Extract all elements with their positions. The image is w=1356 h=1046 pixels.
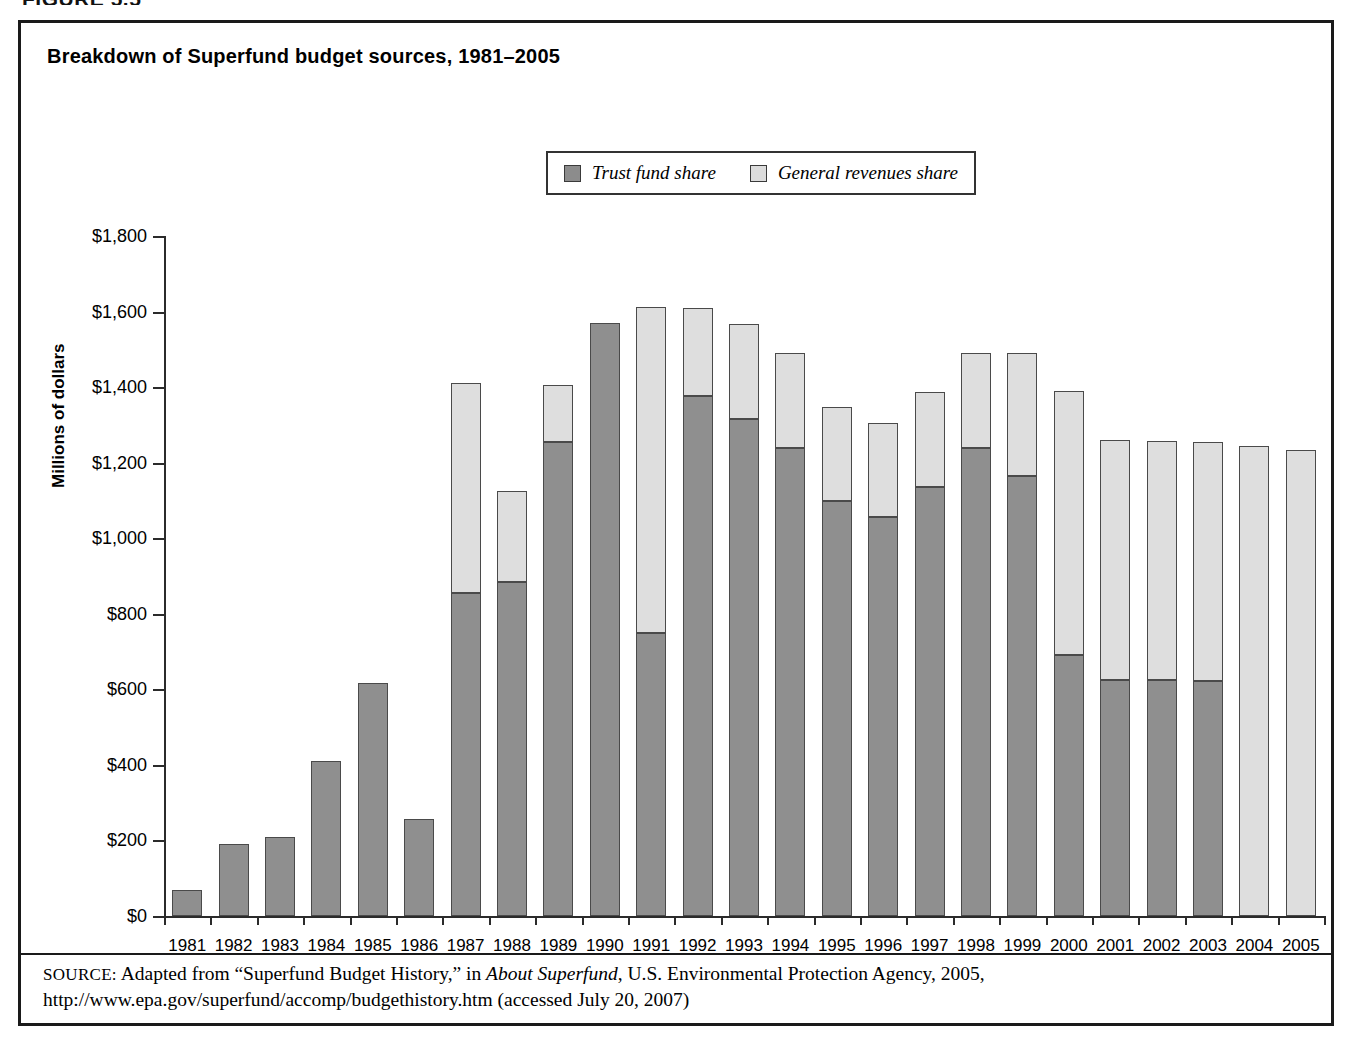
source-divider bbox=[21, 953, 1331, 955]
x-axis-line bbox=[164, 916, 1324, 918]
bar-segment-general-revenues-share[interactable] bbox=[961, 353, 991, 448]
bar-group[interactable] bbox=[1193, 236, 1223, 916]
bar-segment-general-revenues-share[interactable] bbox=[543, 385, 573, 442]
bar-group[interactable] bbox=[775, 236, 805, 916]
bar-segment-trust-fund-share[interactable] bbox=[358, 683, 388, 916]
y-axis-line bbox=[164, 236, 166, 917]
bar-segment-trust-fund-share[interactable] bbox=[1054, 655, 1084, 916]
x-tick-mark bbox=[1092, 916, 1094, 925]
x-tick-mark bbox=[164, 916, 166, 925]
bar-segment-trust-fund-share[interactable] bbox=[683, 396, 713, 916]
bar-group[interactable] bbox=[729, 236, 759, 916]
y-tick-label: $1,800 bbox=[59, 226, 147, 247]
y-tick-label: $600 bbox=[59, 679, 147, 700]
bar-segment-trust-fund-share[interactable] bbox=[265, 837, 295, 916]
bar-group[interactable] bbox=[822, 236, 852, 916]
bar-segment-general-revenues-share[interactable] bbox=[1239, 446, 1269, 916]
bar-group[interactable] bbox=[636, 236, 666, 916]
bar-segment-trust-fund-share[interactable] bbox=[1007, 476, 1037, 916]
y-tick-label: $1,600 bbox=[59, 301, 147, 322]
bar-group[interactable] bbox=[404, 236, 434, 916]
y-tick-mark bbox=[153, 689, 164, 691]
bar-segment-general-revenues-share[interactable] bbox=[1054, 391, 1084, 655]
bar-group[interactable] bbox=[1007, 236, 1037, 916]
bar-group[interactable] bbox=[311, 236, 341, 916]
bar-segment-trust-fund-share[interactable] bbox=[961, 448, 991, 916]
bar-segment-trust-fund-share[interactable] bbox=[451, 593, 481, 916]
bar-segment-general-revenues-share[interactable] bbox=[868, 423, 898, 517]
x-tick-mark bbox=[442, 916, 444, 925]
bar-group[interactable] bbox=[590, 236, 620, 916]
figure-page: FIGURE 5.5 Breakdown of Superfund budget… bbox=[0, 0, 1356, 1046]
bar-segment-trust-fund-share[interactable] bbox=[404, 819, 434, 916]
x-tick-mark bbox=[721, 916, 723, 925]
bar-group[interactable] bbox=[543, 236, 573, 916]
bar-segment-trust-fund-share[interactable] bbox=[1100, 680, 1130, 916]
legend-swatch-icon-trust bbox=[564, 165, 581, 182]
bar-segment-general-revenues-share[interactable] bbox=[1100, 440, 1130, 679]
y-tick-mark bbox=[153, 840, 164, 842]
bar-group[interactable] bbox=[683, 236, 713, 916]
figure-caption: FIGURE 5.5 bbox=[22, 0, 141, 5]
bar-segment-trust-fund-share[interactable] bbox=[868, 517, 898, 916]
bar-group[interactable] bbox=[961, 236, 991, 916]
y-tick-mark bbox=[153, 387, 164, 389]
bar-segment-trust-fund-share[interactable] bbox=[172, 890, 202, 916]
bar-group[interactable] bbox=[1286, 236, 1316, 916]
bar-group[interactable] bbox=[1147, 236, 1177, 916]
legend-label-trust: Trust fund share bbox=[592, 162, 716, 184]
x-tick-mark bbox=[1138, 916, 1140, 925]
bar-segment-trust-fund-share[interactable] bbox=[543, 442, 573, 916]
bar-segment-general-revenues-share[interactable] bbox=[1193, 442, 1223, 681]
bar-segment-general-revenues-share[interactable] bbox=[775, 353, 805, 448]
bar-group[interactable] bbox=[265, 236, 295, 916]
bar-segment-trust-fund-share[interactable] bbox=[729, 419, 759, 916]
legend-item-trust-fund-share: Trust fund share bbox=[564, 162, 716, 184]
bar-segment-general-revenues-share[interactable] bbox=[1286, 450, 1316, 916]
bar-group[interactable] bbox=[1100, 236, 1130, 916]
bar-segment-general-revenues-share[interactable] bbox=[1007, 353, 1037, 476]
bar-group[interactable] bbox=[172, 236, 202, 916]
x-tick-mark bbox=[257, 916, 259, 925]
x-tick-mark bbox=[814, 916, 816, 925]
source-prefix: SOURCE: bbox=[43, 965, 117, 984]
source-note: SOURCE: Adapted from “Superfund Budget H… bbox=[43, 961, 1313, 1014]
bar-segment-general-revenues-share[interactable] bbox=[451, 383, 481, 593]
source-text-1: Adapted from “Superfund Budget History,”… bbox=[117, 963, 486, 984]
bar-group[interactable] bbox=[219, 236, 249, 916]
x-tick-mark bbox=[1185, 916, 1187, 925]
bar-segment-trust-fund-share[interactable] bbox=[1193, 681, 1223, 916]
bar-group[interactable] bbox=[1239, 236, 1269, 916]
y-tick-mark bbox=[153, 236, 164, 238]
x-tick-mark bbox=[582, 916, 584, 925]
bar-group[interactable] bbox=[868, 236, 898, 916]
bar-segment-trust-fund-share[interactable] bbox=[311, 761, 341, 916]
bar-segment-trust-fund-share[interactable] bbox=[915, 487, 945, 916]
bar-segment-trust-fund-share[interactable] bbox=[1147, 680, 1177, 916]
bar-group[interactable] bbox=[358, 236, 388, 916]
x-tick-mark bbox=[999, 916, 1001, 925]
bar-segment-trust-fund-share[interactable] bbox=[636, 633, 666, 916]
x-tick-mark bbox=[953, 916, 955, 925]
bar-segment-trust-fund-share[interactable] bbox=[590, 323, 620, 916]
bar-group[interactable] bbox=[451, 236, 481, 916]
bar-group[interactable] bbox=[1054, 236, 1084, 916]
x-tick-mark bbox=[1324, 916, 1326, 925]
bar-segment-trust-fund-share[interactable] bbox=[822, 501, 852, 916]
y-tick-label: $800 bbox=[59, 603, 147, 624]
bar-segment-general-revenues-share[interactable] bbox=[822, 407, 852, 501]
legend-swatch-icon-general bbox=[750, 165, 767, 182]
bar-segment-general-revenues-share[interactable] bbox=[729, 324, 759, 419]
bar-segment-trust-fund-share[interactable] bbox=[219, 844, 249, 916]
bar-segment-general-revenues-share[interactable] bbox=[1147, 441, 1177, 681]
bar-segment-general-revenues-share[interactable] bbox=[683, 308, 713, 396]
bar-segment-trust-fund-share[interactable] bbox=[775, 448, 805, 916]
bar-group[interactable] bbox=[497, 236, 527, 916]
bar-segment-general-revenues-share[interactable] bbox=[497, 491, 527, 582]
x-tick-mark bbox=[628, 916, 630, 925]
bar-segment-general-revenues-share[interactable] bbox=[915, 392, 945, 486]
bar-group[interactable] bbox=[915, 236, 945, 916]
bar-segment-trust-fund-share[interactable] bbox=[497, 582, 527, 916]
x-tick-mark bbox=[210, 916, 212, 925]
bar-segment-general-revenues-share[interactable] bbox=[636, 307, 666, 633]
